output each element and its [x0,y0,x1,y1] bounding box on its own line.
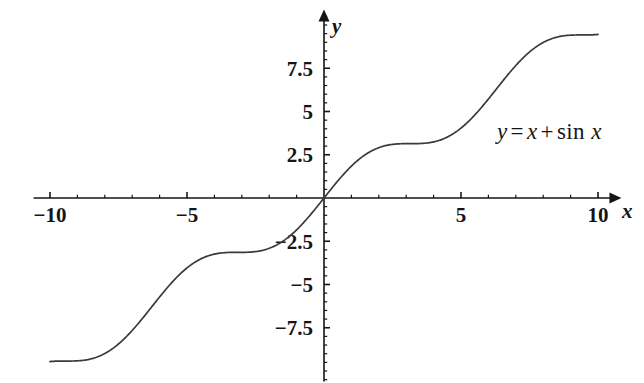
equation-plus: + [538,119,557,144]
x-tick-label: 10 [588,203,609,227]
function-plot: −10−5510 7.552.5−2.5−5−7.5 x y [0,0,644,383]
y-tick-label: 5 [303,100,314,124]
x-tick-label: 5 [456,203,467,227]
equation-annotation: y=x+sin x [497,119,602,145]
equation-sin-arg: x [591,119,602,144]
y-tick-label: 2.5 [287,143,313,167]
x-tick-label: −10 [34,203,67,227]
x-axis-label: x [621,199,633,223]
equation-rhs-var: x [527,119,538,144]
y-tick-label: −5 [291,273,313,297]
x-tick-label: −5 [176,203,198,227]
y-tick-label: 7.5 [287,57,313,81]
equation-lhs: y [497,119,508,144]
equation-sin: sin [557,119,585,144]
y-tick-label: −7.5 [275,316,313,340]
plot-background [0,0,644,383]
equation-equals: = [508,119,527,144]
plot-figure: −10−5510 7.552.5−2.5−5−7.5 x y y=x+sin x [0,0,644,383]
